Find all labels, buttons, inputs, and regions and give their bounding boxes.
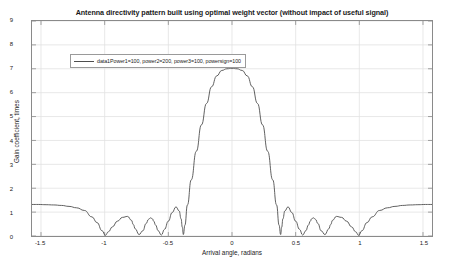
y-tick-label: 5	[0, 113, 13, 119]
y-tick-label: 4	[0, 138, 13, 144]
plot-area: data1Power1=100, power2=200, power3=100,…	[31, 20, 433, 237]
x-axis-label: Arrival angle, radians	[31, 249, 433, 256]
x-tick-label: -1.5	[20, 240, 60, 246]
y-tick-label: 3	[0, 162, 13, 168]
x-tick-label: 0.5	[276, 240, 316, 246]
x-tick-label: 0	[212, 240, 252, 246]
y-tick-label: 6	[0, 89, 13, 95]
y-tick-label: 7	[0, 65, 13, 71]
x-tick-label: -0.5	[148, 240, 188, 246]
page-title: Antenna directivity pattern built using …	[31, 8, 433, 17]
y-tick-label: 8	[0, 41, 13, 47]
y-axis-label: Gain coefficient, times	[13, 72, 20, 192]
legend-entry-label: data1Power1=100, power2=200, power3=100,…	[97, 58, 241, 64]
x-tick-label: 1	[340, 240, 380, 246]
legend-line-swatch	[74, 61, 94, 62]
y-tick-label: 9	[0, 17, 13, 23]
x-tick-label: -1	[84, 240, 124, 246]
figure-window: Antenna directivity pattern built using …	[0, 0, 449, 274]
chart-legend[interactable]: data1Power1=100, power2=200, power3=100,…	[70, 54, 246, 68]
y-tick-label: 1	[0, 210, 13, 216]
y-tick-label: 0	[0, 234, 13, 240]
y-tick-label: 2	[0, 186, 13, 192]
x-tick-label: 1.5	[404, 240, 444, 246]
